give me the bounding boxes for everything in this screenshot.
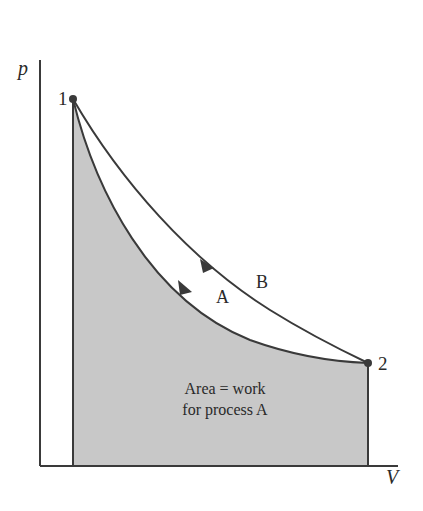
process-a-label: A	[216, 287, 229, 307]
state-2-point	[364, 359, 372, 367]
p-axis-label: p	[16, 57, 28, 80]
state-2-label: 2	[378, 353, 388, 374]
state-1-point	[69, 95, 77, 103]
area-annotation-line1: Area = work	[185, 380, 266, 397]
area-annotation-line2: for process A	[182, 401, 268, 419]
v-axis-label: V	[386, 466, 401, 488]
process-a-arrow-icon	[178, 280, 192, 295]
state-1-label: 1	[58, 88, 68, 109]
process-b-label: B	[256, 272, 268, 292]
pv-diagram: p V 1 2 A B Area = work for process A	[0, 0, 423, 511]
